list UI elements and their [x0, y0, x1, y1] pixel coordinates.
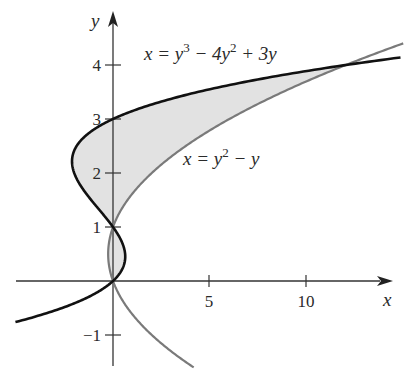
y-tick-label-2: 2: [93, 164, 102, 183]
x-tick-label-10: 10: [298, 292, 315, 311]
y-tick-label-3: 3: [93, 110, 102, 129]
parabola-equation-label: x = y2 − y: [182, 145, 260, 169]
cubic-equation-label: x = y3 − 4y2 + 3y: [143, 40, 277, 64]
x-axis-label: x: [382, 289, 392, 310]
chart: 5 10 4 3 2 1 −1 x y x = y3 − 4y2 + 3y x …: [0, 0, 416, 379]
y-tick-label-minus1: −1: [83, 326, 101, 345]
y-tick-label-1: 1: [93, 218, 102, 237]
axes: [16, 11, 393, 366]
y-tick-label-4: 4: [93, 56, 102, 75]
x-tick-label-5: 5: [205, 292, 214, 311]
y-axis-label: y: [89, 10, 100, 31]
